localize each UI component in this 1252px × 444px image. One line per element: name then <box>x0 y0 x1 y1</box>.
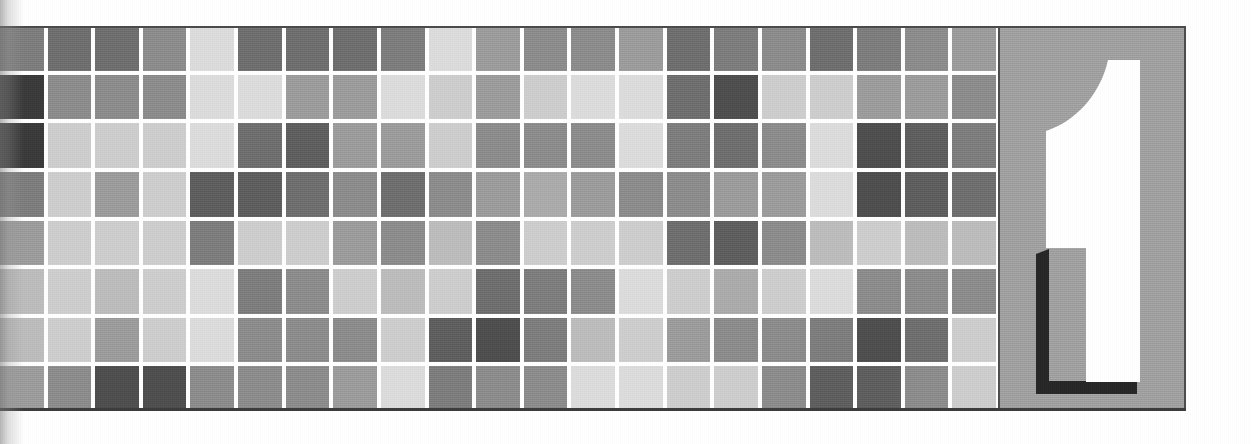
mosaic-cell <box>571 172 615 217</box>
mosaic-cell <box>524 26 568 71</box>
mosaic-cell <box>619 172 663 217</box>
mosaic-cell <box>905 123 949 168</box>
mosaic-cell <box>143 269 187 314</box>
mosaic-cell <box>0 366 44 411</box>
mosaic-cell <box>571 318 615 363</box>
mosaic-cell <box>381 269 425 314</box>
mosaic-cell <box>95 123 139 168</box>
mosaic-cell <box>905 172 949 217</box>
mosaic-cell <box>857 26 901 71</box>
mosaic-cell <box>762 366 806 411</box>
mosaic-cell <box>476 366 520 411</box>
chapter-number-panel <box>998 26 1186 411</box>
mosaic-cell <box>333 221 377 266</box>
mosaic-cell <box>381 366 425 411</box>
mosaic-cell <box>714 26 758 71</box>
mosaic-cell <box>524 318 568 363</box>
mosaic-cell <box>0 172 44 217</box>
mosaic-cell <box>476 318 520 363</box>
mosaic-cell <box>619 366 663 411</box>
mosaic-cell <box>952 26 996 71</box>
mosaic-cell <box>810 366 854 411</box>
mosaic-cell <box>857 269 901 314</box>
mosaic-cell <box>381 26 425 71</box>
mosaic-cell <box>667 318 711 363</box>
mosaic-cell <box>238 123 282 168</box>
mosaic-cell <box>286 366 330 411</box>
mosaic-cell <box>762 75 806 120</box>
mosaic-cell <box>48 318 92 363</box>
mosaic-cell <box>571 269 615 314</box>
mosaic-cell <box>476 75 520 120</box>
mosaic-cell <box>762 172 806 217</box>
mosaic-cell <box>333 172 377 217</box>
mosaic-cell <box>286 269 330 314</box>
mosaic-cell <box>429 172 473 217</box>
mosaic-cell <box>190 269 234 314</box>
mosaic-cell <box>714 318 758 363</box>
mosaic-cell <box>238 172 282 217</box>
grayscale-mosaic-grid <box>0 26 996 411</box>
mosaic-cell <box>190 172 234 217</box>
mosaic-cell <box>95 221 139 266</box>
mosaic-cell <box>905 269 949 314</box>
mosaic-cell <box>667 123 711 168</box>
mosaic-cell <box>952 75 996 120</box>
mosaic-cell <box>810 123 854 168</box>
mosaic-cell <box>143 26 187 71</box>
mosaic-cell <box>286 318 330 363</box>
mosaic-cell <box>0 26 44 71</box>
mosaic-cell <box>667 366 711 411</box>
mosaic-cell <box>429 123 473 168</box>
mosaic-cell <box>286 221 330 266</box>
mosaic-cell <box>381 221 425 266</box>
mosaic-cell <box>476 123 520 168</box>
mosaic-cell <box>952 366 996 411</box>
mosaic-cell <box>619 269 663 314</box>
mosaic-cell <box>190 221 234 266</box>
mosaic-cell <box>48 75 92 120</box>
mosaic-cell <box>524 123 568 168</box>
mosaic-cell <box>952 269 996 314</box>
mosaic-cell <box>95 75 139 120</box>
mosaic-cell <box>667 75 711 120</box>
mosaic-cell <box>143 123 187 168</box>
mosaic-cell <box>238 26 282 71</box>
mosaic-cell <box>95 318 139 363</box>
mosaic-cell <box>524 172 568 217</box>
mosaic-cell <box>429 221 473 266</box>
mosaic-cell <box>857 366 901 411</box>
mosaic-cell <box>952 221 996 266</box>
mosaic-cell <box>0 221 44 266</box>
mosaic-cell <box>143 172 187 217</box>
mosaic-cell <box>667 221 711 266</box>
mosaic-cell <box>95 26 139 71</box>
mosaic-cell <box>619 318 663 363</box>
mosaic-cell <box>95 172 139 217</box>
banner-bottom-rule <box>0 408 1186 411</box>
mosaic-cell <box>714 75 758 120</box>
mosaic-cell <box>524 75 568 120</box>
mosaic-cell <box>905 366 949 411</box>
mosaic-cell <box>810 318 854 363</box>
mosaic-cell <box>143 318 187 363</box>
mosaic-cell <box>905 26 949 71</box>
mosaic-cell <box>810 221 854 266</box>
mosaic-cell <box>190 123 234 168</box>
mosaic-cell <box>905 318 949 363</box>
mosaic-cell <box>714 123 758 168</box>
chapter-opener-page: 1 <box>0 0 1252 444</box>
mosaic-cell <box>810 75 854 120</box>
mosaic-cell <box>476 172 520 217</box>
mosaic-cell <box>952 172 996 217</box>
mosaic-cell <box>333 123 377 168</box>
mosaic-cell <box>619 26 663 71</box>
mosaic-cell <box>143 366 187 411</box>
mosaic-cell <box>429 318 473 363</box>
mosaic-cell <box>190 26 234 71</box>
mosaic-cell <box>857 221 901 266</box>
mosaic-cell <box>571 26 615 71</box>
mosaic-cell <box>238 75 282 120</box>
mosaic-cell <box>143 221 187 266</box>
mosaic-cell <box>333 26 377 71</box>
